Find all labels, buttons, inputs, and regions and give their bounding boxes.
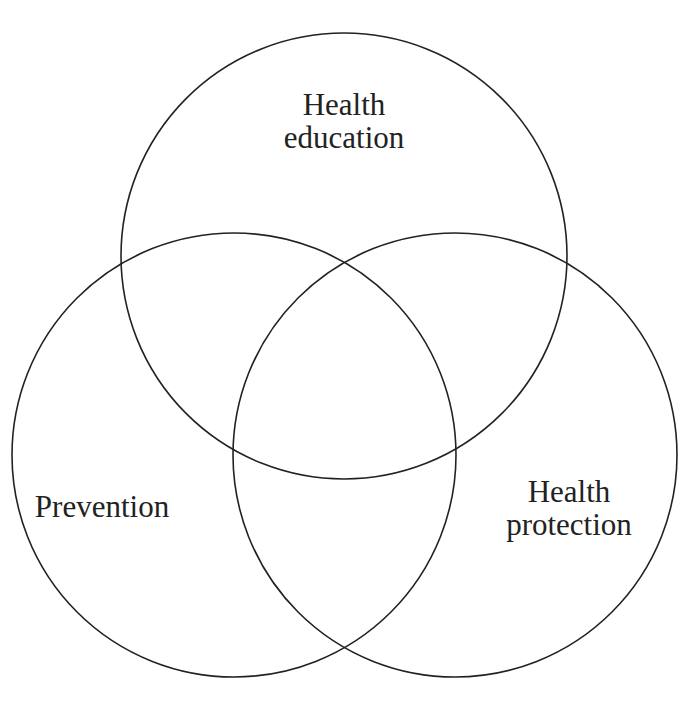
health-education-label-line-2: education	[244, 121, 444, 154]
health-protection-label-line-1: Health	[469, 475, 669, 508]
health-protection-circle	[233, 233, 677, 677]
prevention-label-line-1: Prevention	[2, 490, 202, 523]
prevention-label: Prevention	[2, 490, 202, 523]
health-education-label-line-1: Health	[244, 88, 444, 121]
prevention-circle	[12, 233, 456, 677]
health-education-label: Health education	[244, 88, 444, 154]
health-protection-label-line-2: protection	[469, 508, 669, 541]
health-protection-label: Health protection	[469, 475, 669, 541]
